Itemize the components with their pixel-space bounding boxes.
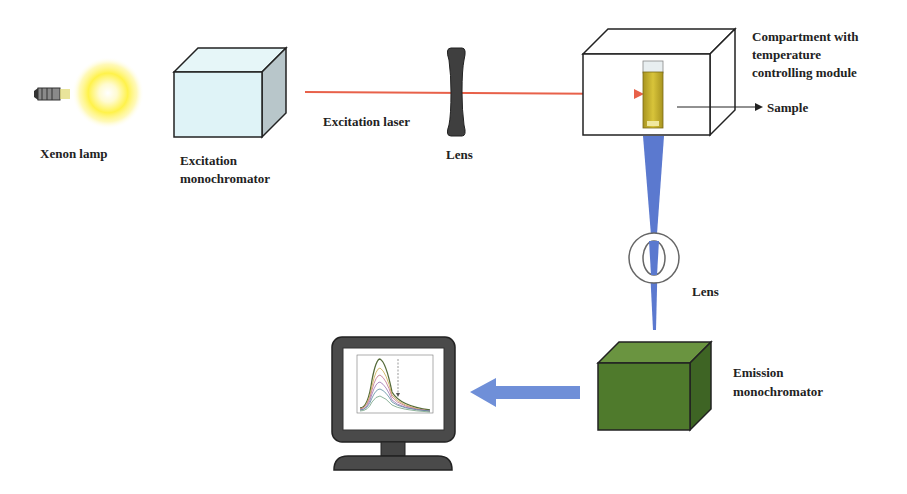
excitation-monochromator-label-line1: Excitation: [180, 152, 237, 169]
compartment-label-line2: temperature: [752, 46, 821, 63]
sample-cuvette-icon: [643, 61, 663, 128]
excitation-monochromator-box: [174, 48, 286, 137]
xenon-lamp-icon: [34, 57, 144, 129]
signal-arrow-icon: [470, 378, 580, 407]
compartment-label-line3: controlling module: [752, 64, 857, 81]
xenon-lamp-label: Xenon lamp: [40, 145, 108, 162]
excitation-laser-label: Excitation laser: [323, 113, 410, 130]
emission-monochromator-box: [598, 342, 711, 430]
computer-monitor-icon: [332, 337, 455, 470]
compartment-label-line1: Compartment with: [752, 28, 859, 45]
excitation-monochromator-label-line2: monochromator: [180, 170, 270, 187]
emission-monochromator-label-line1: Emission: [733, 364, 784, 381]
emission-monochromator-label-line2: monochromator: [733, 383, 823, 400]
lens-vertical-label: Lens: [692, 283, 719, 300]
emission-spectrum-thumbnail: [357, 355, 433, 413]
lens-vertical-icon: [629, 233, 679, 283]
sample-label: Sample: [767, 99, 808, 116]
lens-top-label: Lens: [446, 146, 473, 163]
